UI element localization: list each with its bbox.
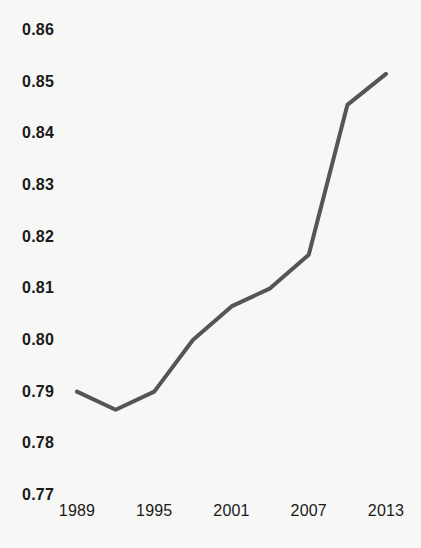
series-polyline: [77, 74, 386, 410]
line-chart: 0.860.850.840.830.820.810.800.790.780.77…: [0, 0, 421, 548]
plot-area: [0, 0, 421, 548]
data-series-line: [0, 0, 421, 548]
